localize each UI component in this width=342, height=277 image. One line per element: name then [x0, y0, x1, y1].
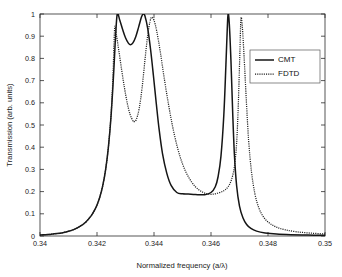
y-tick-label: 1	[31, 10, 35, 19]
x-axis-label: Normalized frequency (a/λ)	[136, 261, 228, 270]
x-tick-label: 0.348	[259, 239, 277, 248]
x-tick-label: 0.34	[33, 239, 47, 248]
y-axis-label: Transmission (arb. units)	[5, 83, 14, 167]
legend-label-cmt: CMT	[278, 55, 295, 64]
y-tick-label: 0.1	[25, 209, 35, 218]
y-tick-label: 0.8	[25, 54, 35, 63]
y-tick-label: 0.6	[25, 98, 35, 107]
figure-container: 0.340.3420.3440.3460.3480.35 00.10.20.30…	[0, 0, 342, 277]
y-tick-label: 0.9	[25, 32, 35, 41]
x-tick-label: 0.342	[88, 239, 106, 248]
y-tick-label: 0.2	[25, 187, 35, 196]
x-tick-label: 0.35	[318, 239, 332, 248]
y-tick-label: 0	[31, 232, 35, 241]
y-tick-label: 0.7	[25, 76, 35, 85]
y-tick-label: 0.3	[25, 165, 35, 174]
x-tick-label: 0.346	[202, 239, 220, 248]
legend-label-fdtd: FDTD	[278, 69, 300, 78]
chart-background	[0, 0, 342, 277]
y-tick-label: 0.5	[25, 121, 35, 130]
transmission-spectrum-chart: 0.340.3420.3440.3460.3480.35 00.10.20.30…	[0, 0, 342, 277]
x-tick-label: 0.344	[145, 239, 163, 248]
chart-legend: CMTFDTD	[250, 50, 320, 83]
y-tick-label: 0.4	[25, 143, 35, 152]
